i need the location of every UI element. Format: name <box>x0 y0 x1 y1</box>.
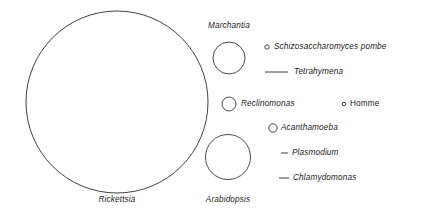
label-rickettsia: Rickettsia <box>99 196 136 204</box>
circle-marchantia <box>213 42 245 74</box>
label-schizosaccharomyces-pombe: Schizosaccharomyces pombe <box>274 43 387 51</box>
genome-size-circle-diagram: Rickettsia Marchantia Arabidopsis Reclin… <box>0 0 427 219</box>
label-chlamydomonas: Chlamydomonas <box>293 174 356 182</box>
label-reclinomonas: Reclinomonas <box>241 100 295 108</box>
circle-acanthamoeba <box>269 124 277 132</box>
circle-schizosaccharomyces-pombe <box>265 45 269 49</box>
label-tetrahymena: Tetrahymena <box>294 68 343 76</box>
circle-arabidopsis <box>206 135 251 180</box>
circle-rickettsia <box>26 11 208 193</box>
label-arabidopsis: Arabidopsis <box>206 196 250 204</box>
circle-reclinomonas <box>222 97 236 111</box>
label-plasmodium: Plasmodium <box>292 149 339 157</box>
circle-homme <box>342 102 345 105</box>
label-homme: Homme <box>350 100 379 108</box>
label-marchantia: Marchantia <box>208 22 250 30</box>
circle-shapes-canvas <box>0 0 427 219</box>
label-acanthamoeba: Acanthamoeba <box>281 124 338 132</box>
